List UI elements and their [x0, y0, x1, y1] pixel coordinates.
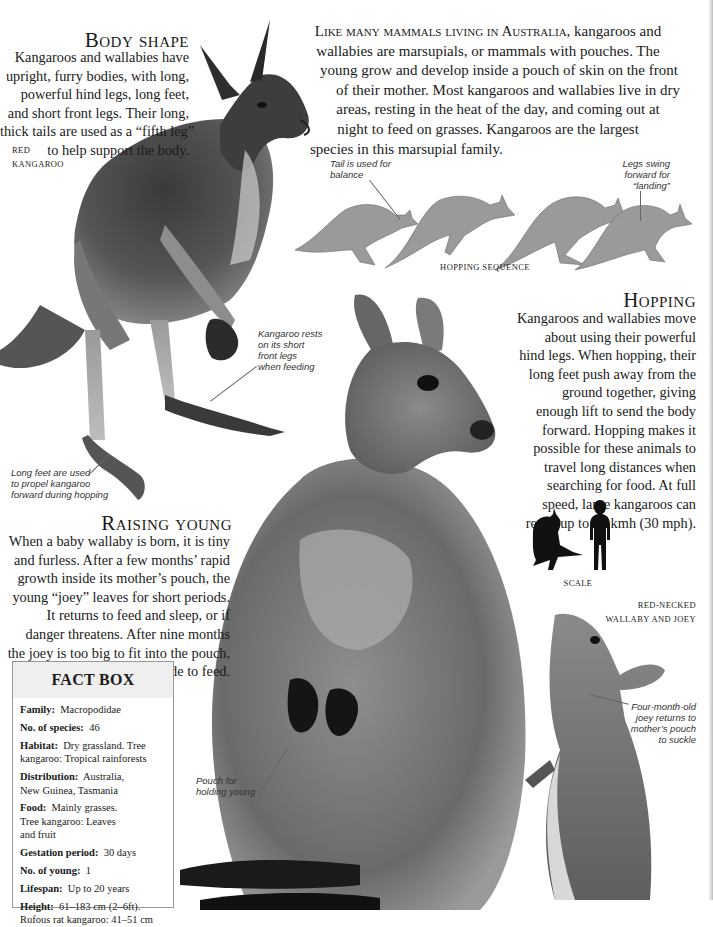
- legs-leader-line: [640, 191, 641, 221]
- human-silhouette-icon: [590, 500, 610, 570]
- fact-species: No. of species: 46: [20, 721, 173, 734]
- fact-family: Family: Macropodidae: [20, 703, 173, 716]
- pouch-note: Pouch for holding young: [196, 775, 255, 797]
- fact-height: Height: 61–183 cm (2–6ft).Rufous rat kan…: [20, 900, 173, 927]
- kangaroo-silhouette-icon: [533, 508, 583, 570]
- red-necked-wallaby-image: [180, 280, 540, 910]
- fact-habitat: Habitat: Dry grassland. Treekangaroo: Tr…: [20, 739, 173, 766]
- page-edge: [708, 0, 713, 900]
- intro-text: Like many mammals living in Australia, k…: [268, 22, 708, 159]
- fact-box: FACT BOX Family: Macropodidae No. of spe…: [12, 661, 174, 908]
- fact-gestation: Gestation period: 30 days: [20, 846, 173, 859]
- joey-note: Four-month-old joey returns to mother’s …: [620, 701, 696, 745]
- joey-image: [515, 610, 675, 900]
- legs-swing-note: Legs swing forward for “landing”: [600, 158, 670, 191]
- fact-distribution: Distribution: Australia,New Guinea, Tasm…: [20, 770, 173, 797]
- intro-lead: Like many mammals living in Australia,: [315, 23, 571, 39]
- fact-lifespan: Lifespan: Up to 20 years: [20, 882, 173, 895]
- hopping-sequence-illustration: [290, 180, 690, 260]
- fact-box-title: FACT BOX: [13, 662, 173, 698]
- scale-silhouettes: [528, 500, 618, 572]
- red-kangaroo-caption: RED KANGAROO: [12, 143, 64, 171]
- raising-young-text: When a baby wallaby is born, it is tiny …: [0, 532, 230, 681]
- fact-box-body: Family: Macropodidae No. of species: 46 …: [13, 698, 173, 927]
- long-feet-note: Long feet are used to propel kangaroo fo…: [11, 467, 108, 500]
- hopping-sequence-caption: HOPPING SEQUENCE: [420, 260, 550, 274]
- tail-balance-note: Tail is used for balance: [330, 158, 400, 180]
- scale-caption: SCALE: [548, 576, 608, 590]
- fact-young: No. of young: 1: [20, 864, 173, 877]
- fact-food: Food: Mainly grasses.Tree kangaroo: Leav…: [20, 801, 173, 841]
